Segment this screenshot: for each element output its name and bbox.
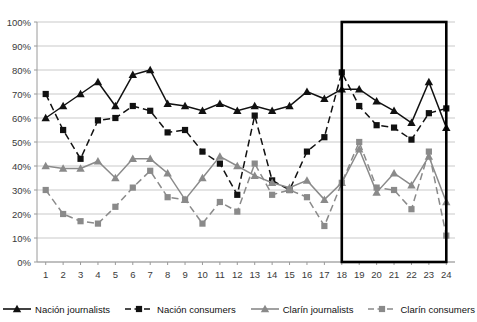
data-point-marker — [130, 103, 136, 109]
data-point-marker — [269, 192, 275, 198]
data-point-marker — [286, 187, 292, 193]
x-tick-label: 13 — [249, 269, 260, 280]
data-point-marker — [95, 117, 101, 123]
chart-legend: Nación journalistsNación consumersClarín… — [0, 296, 477, 322]
x-tick-label: 22 — [406, 269, 417, 280]
data-point-marker — [112, 204, 118, 210]
data-point-marker — [407, 119, 415, 126]
data-point-marker — [147, 108, 153, 114]
legend-item-clarn-consumers[interactable]: Clarín consumers — [367, 302, 474, 316]
legend-label: Nación journalists — [35, 304, 110, 315]
x-tick-label: 10 — [197, 269, 208, 280]
data-point-marker — [182, 127, 188, 133]
y-tick-label: 60% — [12, 113, 32, 124]
x-tick-label: 3 — [78, 269, 83, 280]
x-tick-label: 6 — [130, 269, 135, 280]
legend-label: Clarín journalists — [283, 304, 354, 315]
x-tick-label: 9 — [182, 269, 187, 280]
x-tick-label: 17 — [319, 269, 330, 280]
data-point-marker — [182, 197, 188, 203]
data-point-marker — [112, 115, 118, 121]
data-point-marker — [60, 127, 66, 133]
data-point-marker — [390, 169, 398, 176]
legend-square-icon — [124, 302, 154, 316]
chart-container: 0%10%20%30%40%50%60%70%80%90%100% 123456… — [0, 0, 477, 322]
x-tick-label: 15 — [284, 269, 295, 280]
series-line — [46, 72, 447, 194]
x-tick-label: 1 — [43, 269, 48, 280]
data-point-marker — [304, 149, 310, 155]
data-point-marker — [372, 97, 380, 104]
data-point-marker — [163, 99, 171, 106]
data-point-marker — [234, 192, 240, 198]
line-chart-svg: 0%10%20%30%40%50%60%70%80%90%100% 123456… — [0, 0, 477, 290]
data-point-marker — [136, 306, 142, 312]
y-tick-label: 10% — [12, 233, 32, 244]
x-axis-tick-labels: 123456789101112131415161718192021222324 — [43, 269, 452, 280]
plot-area: 0%10%20%30%40%50%60%70%80%90%100% 123456… — [0, 0, 477, 290]
x-tick-label: 8 — [165, 269, 170, 280]
legend-item-nacin-consumers[interactable]: Nación consumers — [124, 302, 236, 316]
data-point-marker — [321, 223, 327, 229]
x-tick-label: 4 — [95, 269, 100, 280]
data-point-marker — [199, 149, 205, 155]
y-tick-label: 90% — [12, 41, 32, 52]
x-tick-label: 2 — [60, 269, 65, 280]
data-point-marker — [130, 185, 136, 191]
data-point-marker — [356, 103, 362, 109]
x-tick-label: 24 — [441, 269, 452, 280]
data-point-marker — [94, 157, 102, 164]
legend-label: Nación consumers — [157, 304, 236, 315]
data-point-marker — [43, 187, 49, 193]
data-point-marker — [147, 168, 153, 174]
data-point-marker — [234, 209, 240, 215]
data-point-marker — [43, 91, 49, 97]
y-axis-tick-labels: 0%10%20%30%40%50%60%70%80%90%100% — [7, 17, 32, 268]
data-point-marker — [165, 194, 171, 200]
data-point-marker — [252, 113, 258, 119]
data-point-marker — [60, 211, 66, 217]
data-point-marker — [303, 87, 311, 94]
data-point-marker — [199, 221, 205, 227]
legend-item-clarn-journalists[interactable]: Clarín journalists — [250, 302, 354, 316]
data-point-marker — [95, 221, 101, 227]
data-point-marker — [426, 149, 432, 155]
data-point-marker — [77, 156, 83, 162]
data-point-marker — [321, 134, 327, 140]
legend-triangle-icon — [2, 302, 32, 316]
data-point-marker — [426, 110, 432, 116]
data-point-marker — [216, 152, 224, 159]
x-tick-label: 19 — [354, 269, 365, 280]
data-point-marker — [251, 102, 259, 109]
data-point-marker — [391, 187, 397, 193]
y-tick-label: 100% — [7, 17, 32, 28]
y-tick-label: 40% — [12, 161, 32, 172]
data-point-marker — [217, 161, 223, 167]
series-nacin-journalists — [42, 66, 451, 131]
x-tick-label: 18 — [337, 269, 348, 280]
y-tick-label: 70% — [12, 89, 32, 100]
data-point-marker — [59, 102, 67, 109]
legend-triangle-icon — [250, 302, 280, 316]
data-point-marker — [425, 78, 433, 85]
y-tick-label: 30% — [12, 185, 32, 196]
data-point-marker — [374, 122, 380, 128]
x-tick-label: 20 — [371, 269, 382, 280]
data-point-marker — [374, 185, 380, 191]
legend-label: Clarín consumers — [400, 304, 474, 315]
x-tick-label: 7 — [148, 269, 153, 280]
x-tick-label: 23 — [424, 269, 435, 280]
data-point-marker — [252, 161, 258, 167]
data-series-layer — [42, 66, 451, 239]
x-tick-label: 21 — [389, 269, 400, 280]
x-tick-label: 16 — [302, 269, 313, 280]
data-point-marker — [303, 176, 311, 183]
y-tick-label: 50% — [12, 137, 32, 148]
data-point-marker — [356, 139, 362, 145]
x-tick-label: 5 — [113, 269, 118, 280]
x-tick-label: 12 — [232, 269, 243, 280]
data-point-marker — [408, 206, 414, 212]
y-tick-label: 0% — [17, 257, 31, 268]
legend-item-nacin-journalists[interactable]: Nación journalists — [2, 302, 110, 316]
data-point-marker — [379, 306, 385, 312]
